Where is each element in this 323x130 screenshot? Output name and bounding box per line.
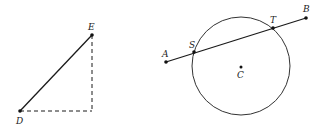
point-s (192, 50, 196, 54)
geometry-diagram: D E A S T B C (0, 0, 323, 130)
label-e: E (87, 22, 95, 32)
label-s: S (189, 40, 195, 50)
circle-secant-figure: A S T B C (161, 4, 310, 115)
point-a (164, 60, 168, 64)
point-t (271, 26, 275, 30)
point-b (304, 16, 308, 20)
point-c (240, 66, 243, 69)
label-b: B (302, 4, 310, 14)
label-c: C (237, 70, 244, 80)
secant-ab (166, 18, 306, 62)
label-d: D (15, 116, 23, 126)
segment-de (20, 35, 92, 111)
point-d (18, 109, 22, 113)
right-triangle-figure: D E (15, 22, 95, 126)
label-t: T (270, 15, 277, 25)
point-e (90, 33, 94, 37)
label-a: A (161, 49, 169, 59)
